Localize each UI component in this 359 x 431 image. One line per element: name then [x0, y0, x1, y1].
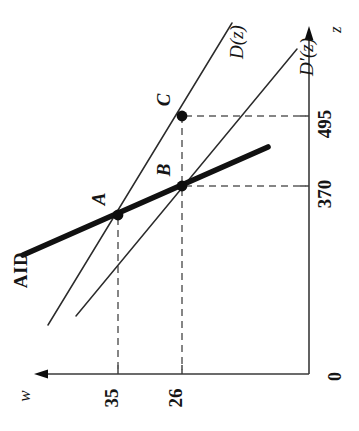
z-tick-label-370: 370 — [314, 180, 335, 209]
chart-canvas: z 0 495 370 w 35 26 D(z) D′(z) AID A B C — [0, 0, 359, 431]
w-axis-label: w — [15, 390, 34, 402]
curve-label-aid: AID — [10, 252, 31, 288]
point-label-B: B — [153, 164, 174, 178]
data-point-C — [177, 111, 188, 122]
z-axis-arrowhead — [305, 26, 314, 40]
curve-label-d-of-z: D(z) — [226, 25, 248, 60]
curve-label-d-prime-of-z: D′(z) — [296, 38, 318, 77]
point-label-C: C — [153, 93, 174, 106]
w-axis-group — [34, 365, 309, 378]
figure-container: z 0 495 370 w 35 26 D(z) D′(z) AID A B C — [0, 0, 359, 431]
curve-aid — [23, 147, 268, 255]
data-point-A — [113, 210, 124, 221]
z-axis-label: z — [326, 26, 345, 34]
guide-lines-group — [118, 116, 306, 370]
origin-label: 0 — [325, 372, 345, 381]
w-axis-arrowhead — [34, 370, 48, 379]
w-tick-label-35: 35 — [101, 389, 122, 408]
z-tick-label-495: 495 — [314, 110, 335, 139]
point-label-A: A — [88, 193, 109, 207]
w-tick-label-26: 26 — [165, 389, 186, 408]
data-point-B — [177, 181, 188, 192]
z-axis-group — [300, 26, 313, 374]
